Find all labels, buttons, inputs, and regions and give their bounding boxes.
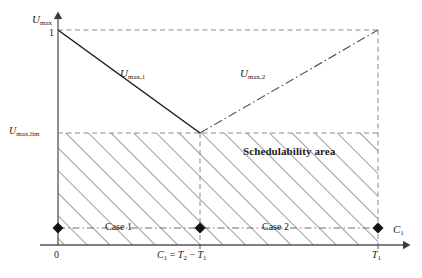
x-tick-label-c1-break: C1 = T2 − T1 xyxy=(157,250,207,262)
x-tick-label-origin: 0 xyxy=(54,250,59,260)
curve-umax1 xyxy=(58,30,200,133)
case2-label: Case 2 xyxy=(262,222,289,232)
diagram-canvas xyxy=(0,0,422,278)
curve-label-umax2: Umax,2 xyxy=(240,68,265,81)
x-tick-label-t1: T1 xyxy=(372,250,381,262)
schedulability-diagram: Umax 1 Umax,lim Umax,1 Umax,2 Schedulabi… xyxy=(0,0,422,278)
case1-label: Case 1 xyxy=(105,222,132,232)
y-axis-label: Umax xyxy=(32,14,52,27)
y-tick-label-umax-lim: Umax,lim xyxy=(9,126,39,138)
curve-umax2 xyxy=(200,30,378,133)
curve-label-umax1: Umax,1 xyxy=(120,68,145,81)
y-tick-label-one: 1 xyxy=(49,28,54,38)
x-axis-label: C1 xyxy=(393,224,404,237)
schedulability-area-label: Schedulability area xyxy=(243,146,335,157)
